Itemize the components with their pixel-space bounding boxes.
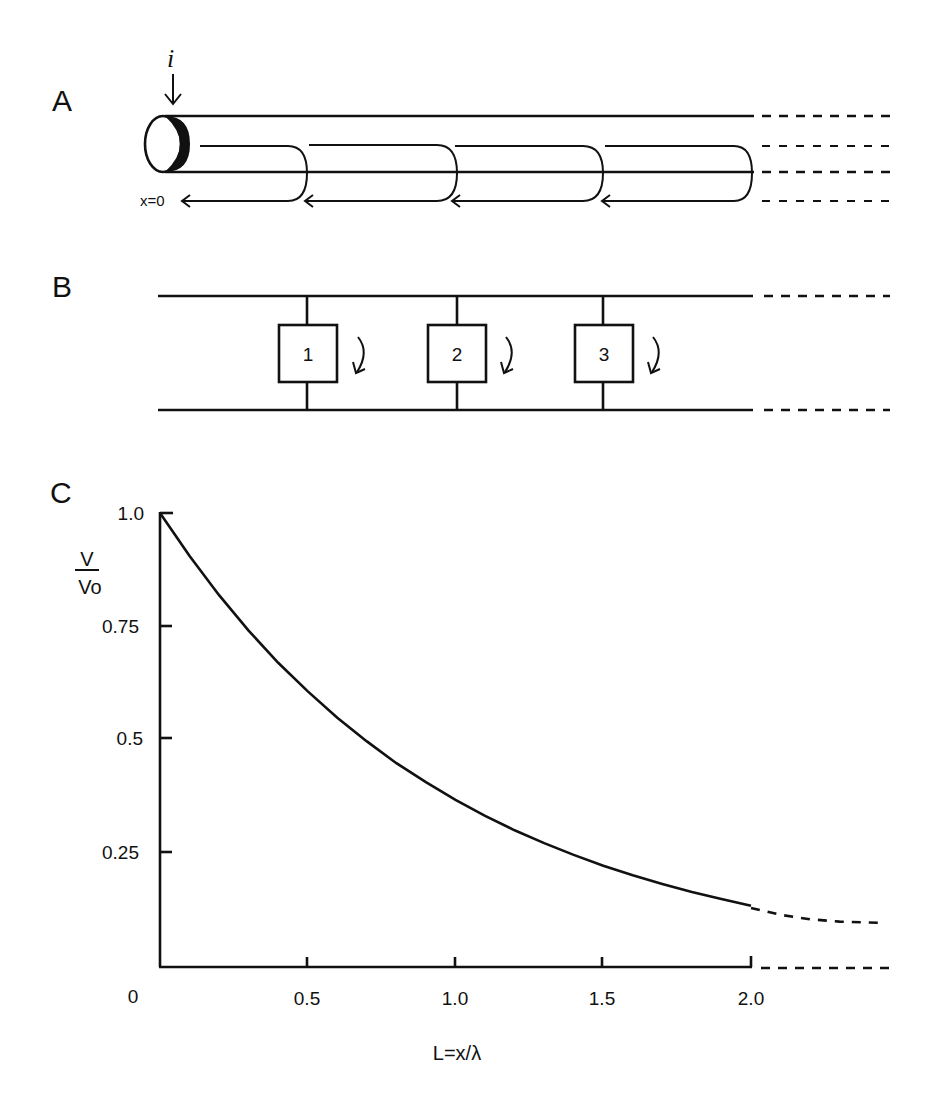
panel-a-label: A [52, 84, 72, 117]
x-axis-label: L=x/λ [433, 1042, 481, 1064]
panel-b-label: B [52, 270, 72, 303]
panel-c: C V Vo 1.0 0.75 0.5 0.25 [50, 476, 890, 1064]
current-symbol: i [167, 44, 174, 73]
cable-cylinder [145, 116, 890, 172]
y-label-numerator: V [80, 548, 94, 570]
y-axis-label: V Vo [75, 548, 102, 598]
origin-label: x=0 [140, 192, 165, 209]
curved-arrow-icon [353, 337, 365, 373]
current-arrow-icon [165, 74, 181, 104]
x-tick-label: 2.0 [738, 988, 764, 1009]
compartment-3: 3 [575, 296, 660, 410]
compartment-1: 1 [279, 296, 365, 410]
panel-c-label: C [50, 476, 72, 509]
compartment-label: 1 [303, 344, 314, 365]
panel-a: A i [52, 44, 890, 209]
x-tick-label: 1.0 [442, 988, 468, 1009]
y-tick-label: 0.5 [117, 728, 143, 749]
panel-b: B 1 2 [52, 270, 890, 410]
curved-arrow-icon [648, 337, 660, 373]
current-loops [182, 145, 890, 207]
x-tick-label: 0.5 [294, 988, 320, 1009]
compartment-2: 2 [428, 296, 513, 410]
curved-arrow-icon [501, 337, 513, 373]
y-tick-label: 0.75 [102, 616, 139, 637]
compartment-label: 2 [452, 344, 463, 365]
compartment-label: 3 [599, 344, 610, 365]
axes [159, 512, 890, 968]
y-tick-label: 1.0 [118, 503, 144, 524]
decay-curve [160, 513, 751, 906]
decay-curve-extrapolation [751, 908, 884, 923]
x-tick-label: 0 [128, 986, 139, 1007]
y-label-denominator: Vo [78, 576, 101, 598]
cable-theory-figure: A i [0, 0, 933, 1094]
x-tick-label: 1.5 [589, 988, 615, 1009]
y-tick-label: 0.25 [102, 842, 139, 863]
